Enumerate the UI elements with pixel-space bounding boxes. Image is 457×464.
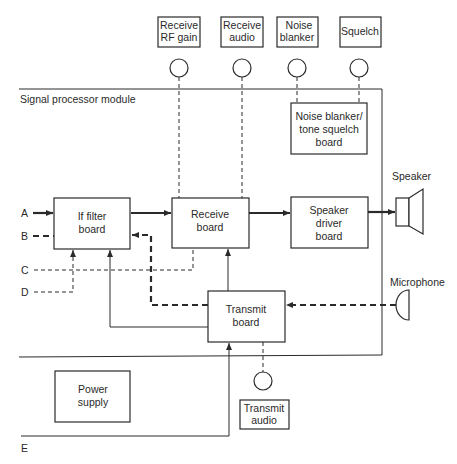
port-e-label: E [21, 442, 28, 454]
board-label: board [233, 316, 260, 328]
board-label: board [316, 136, 343, 148]
board-label: Power [78, 383, 108, 395]
port-c-label: C [21, 264, 29, 276]
control-label: RF gain [161, 31, 198, 43]
knob-icon [233, 59, 251, 77]
control-receive-rf-gain: Receive RF gain [158, 17, 200, 77]
board-label: board [79, 223, 106, 235]
port-d-label: D [21, 286, 29, 298]
control-label: audio [251, 414, 277, 426]
board-label: If filter [78, 210, 107, 222]
speaker-label: Speaker [392, 170, 432, 182]
board-label: board [197, 221, 224, 233]
signal-d-line [34, 250, 73, 292]
port-a-label: A [21, 207, 28, 219]
transmit-board: Transmit board [208, 291, 285, 342]
if-filter-board: If filter board [54, 198, 130, 249]
board-label: supply [78, 396, 109, 408]
board-label: board [316, 230, 343, 242]
control-label: Receive [160, 19, 198, 31]
board-label: Transmit [226, 303, 267, 315]
control-label: Squelch [341, 25, 379, 37]
control-label: audio [229, 31, 255, 43]
transmit-to-if-solid-line [110, 250, 208, 327]
board-label: driver [316, 217, 343, 229]
control-noise-blanker: Noise blanker [277, 17, 318, 77]
board-label: Noise blanker/ [295, 110, 362, 122]
control-label: Noise [286, 19, 313, 31]
module-label: Signal processor module [20, 93, 136, 105]
speaker-driver-board: Speaker driver board [291, 197, 368, 248]
microphone-icon [396, 290, 409, 320]
power-supply-box: Power supply [55, 371, 130, 422]
microphone-label: Microphone [390, 276, 445, 288]
control-label: Receive [223, 19, 261, 31]
port-b-label: B [21, 230, 28, 242]
board-label: Receive [191, 208, 229, 220]
signal-processor-block-diagram: Receive RF gain Receive audio Noise blan… [0, 0, 457, 464]
receive-board: Receive board [172, 198, 249, 248]
knob-icon [254, 372, 272, 390]
control-squelch: Squelch [340, 17, 381, 77]
speaker-icon [396, 189, 423, 234]
control-label: Transmit [244, 402, 285, 414]
control-label: blanker [280, 31, 315, 43]
knob-icon [170, 59, 188, 77]
control-receive-audio: Receive audio [221, 17, 263, 77]
knob-icon [350, 59, 368, 77]
control-transmit-audio: Transmit audio [240, 372, 289, 429]
noise-blanker-tone-squelch-board: Noise blanker/ tone squelch board [291, 103, 367, 154]
board-label: tone squelch [299, 123, 359, 135]
signal-c-line [34, 248, 193, 270]
board-label: Speaker [309, 204, 349, 216]
knob-icon [288, 59, 306, 77]
